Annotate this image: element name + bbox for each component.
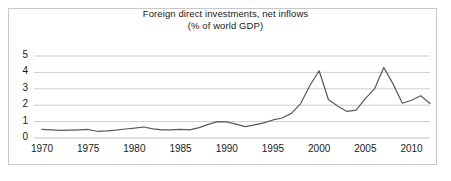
y-axis-tick-label: 5: [12, 49, 28, 60]
x-axis-tick-label: 1990: [207, 143, 247, 154]
y-axis-tick-label: 3: [12, 82, 28, 93]
x-axis-tick-label: 2010: [392, 143, 432, 154]
y-axis-tick-label: 2: [12, 98, 28, 109]
x-axis-tick-label: 1975: [68, 143, 108, 154]
x-axis-tick-label: 1985: [161, 143, 201, 154]
y-axis-tick-label: 1: [12, 115, 28, 126]
chart-title: Foreign direct investments, net inflows …: [0, 8, 451, 32]
chart-title-line-1: Foreign direct investments, net inflows: [0, 8, 451, 20]
x-axis-tick-label: 1980: [114, 143, 154, 154]
y-axis-tick-label: 4: [12, 65, 28, 76]
x-axis-tick-label: 2000: [299, 143, 339, 154]
chart-title-line-2: (% of world GDP): [0, 20, 451, 32]
x-axis-tick-label: 2005: [345, 143, 385, 154]
x-axis-tick-label: 1995: [253, 143, 293, 154]
x-axis-tick-label: 1970: [22, 143, 62, 154]
y-axis-tick-label: 0: [12, 131, 28, 142]
